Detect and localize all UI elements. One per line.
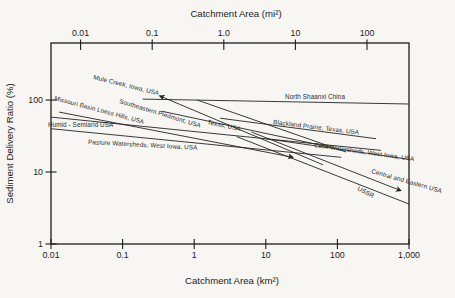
bottom-axis-title: Catchment Area (km²) bbox=[185, 275, 279, 286]
series-label-central-eastern-usa: Central and Eastern USA bbox=[371, 167, 444, 194]
y-axis-tick-label: 10 bbox=[33, 167, 43, 177]
x-axis-bottom-tick-label: 1,000 bbox=[398, 250, 420, 260]
x-axis-bottom-tick-label: 10 bbox=[261, 250, 271, 260]
series-label-mule-creek: Mule Creek, Iowa, USA bbox=[93, 73, 161, 96]
series-line-north-shaanxi bbox=[143, 99, 409, 104]
x-axis-top-tick-label: 10 bbox=[290, 28, 300, 38]
x-axis-top-tick-label: 0.01 bbox=[72, 28, 89, 38]
top-axis-title: Catchment Area (mi²) bbox=[190, 8, 281, 19]
x-axis-top-tick-label: 100 bbox=[360, 28, 375, 38]
left-axis-title: Sediment Delivery Ratio (%) bbox=[4, 83, 15, 204]
series-label-corn-watersheds: Corn Watersheds, West Iowa, USA bbox=[314, 141, 416, 162]
series-label-southeastern-piedmont: Southeastern Piedmont, USA bbox=[119, 97, 203, 129]
y-axis-tick-label: 1 bbox=[38, 239, 43, 249]
x-axis-bottom-tick-label: 100 bbox=[330, 250, 345, 260]
x-axis-bottom-tick-label: 1 bbox=[192, 250, 197, 260]
series-line-central-eastern-usa bbox=[251, 132, 401, 191]
x-axis-bottom-tick-label: 0.1 bbox=[116, 250, 128, 260]
x-axis-bottom-tick-label: 0.01 bbox=[42, 250, 59, 260]
series-label-pasture-watersheds: Pasture Watersheds, West Iowa, USA bbox=[88, 138, 198, 151]
x-axis-top-tick-label: 0.1 bbox=[146, 28, 158, 38]
series-label-north-shaanxi: North Shaanxi China bbox=[285, 93, 345, 100]
series-lines: Mule Creek, Iowa, USAMissouri Basin Loes… bbox=[48, 73, 444, 204]
x-axis-top-tick-label: 1.0 bbox=[218, 28, 230, 38]
figure-canvas: Catchment Area (mi²) Catchment Area (km²… bbox=[0, 0, 455, 298]
y-axis-tick-label: 100 bbox=[28, 95, 43, 105]
series-label-humid-semiarid: Humid - Semiarid USA bbox=[48, 121, 114, 128]
sediment-delivery-ratio-chart: Catchment Area (mi²) Catchment Area (km²… bbox=[0, 0, 455, 298]
